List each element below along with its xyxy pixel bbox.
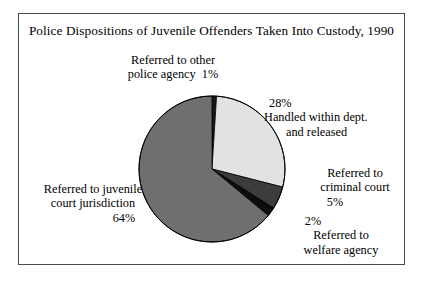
slice-label-handled-line2: and released bbox=[286, 125, 367, 139]
slice-label-criminal-court: Referred to criminal court 5% bbox=[309, 166, 401, 209]
slice-value-handled: 28% bbox=[269, 96, 367, 110]
slice-label-handled-line1: Handled within dept. bbox=[264, 110, 367, 124]
slice-label-criminal-court-line1: Referred to bbox=[309, 166, 401, 180]
slice-label-welfare-agency-line2: welfare agency bbox=[277, 243, 405, 257]
slice-value-juvenile-court: 64% bbox=[85, 211, 163, 225]
slice-label-police-agency-line2: police agency 1% bbox=[113, 67, 233, 81]
slice-value-police-agency: 1% bbox=[202, 67, 218, 81]
slice-label-welfare-agency: 2% Referred to welfare agency bbox=[277, 214, 405, 257]
slice-label-juvenile-court-line2: court jurisdiction bbox=[23, 196, 163, 210]
slice-label-handled: 28% Handled within dept. and released bbox=[264, 96, 367, 139]
slice-label-juvenile-court: Referred to juvenile court jurisdiction … bbox=[23, 182, 163, 225]
slice-label-police-agency: Referred to other police agency 1% bbox=[113, 53, 233, 82]
slice-label-police-agency-line1: Referred to other bbox=[131, 53, 215, 67]
chart-frame: Police Dispositions of Juvenile Offender… bbox=[18, 13, 405, 265]
slice-value-welfare-agency: 2% bbox=[277, 214, 349, 228]
slice-label-juvenile-court-line1: Referred to juvenile bbox=[23, 182, 163, 196]
slice-label-welfare-agency-line1: Referred to bbox=[277, 228, 405, 242]
slice-value-criminal-court: 5% bbox=[309, 195, 361, 209]
slice-label-police-agency-text2: police agency bbox=[128, 67, 196, 81]
slice-label-criminal-court-line2: criminal court bbox=[309, 180, 401, 194]
